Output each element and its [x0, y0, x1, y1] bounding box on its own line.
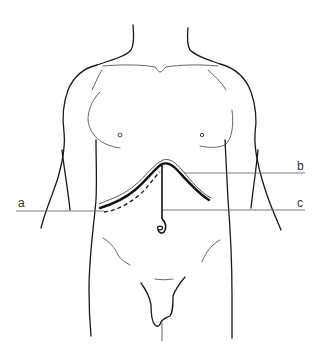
chest [88, 70, 233, 148]
label-c: c [297, 196, 303, 210]
nipple-left [118, 133, 122, 137]
torso-sides [89, 140, 232, 338]
torso-diagram: a b c [0, 0, 323, 361]
incision-b [99, 159, 211, 208]
clavicles [103, 65, 218, 72]
nipple-right [200, 133, 203, 136]
neck [97, 25, 220, 65]
genitals [141, 277, 185, 341]
groin [103, 238, 220, 280]
incision-c [158, 164, 166, 233]
shoulders-arms [41, 64, 281, 230]
label-a: a [18, 196, 25, 210]
label-b: b [297, 159, 304, 173]
umbilicus [158, 226, 163, 230]
